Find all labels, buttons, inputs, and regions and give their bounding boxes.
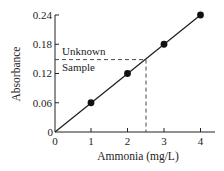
y-ticks [55, 15, 59, 103]
y-tick-label: 0.24 [33, 9, 53, 21]
x-tick-label: 0 [52, 135, 58, 147]
x-tick-label: 2 [125, 135, 131, 147]
x-tick-label: 1 [88, 135, 94, 147]
chart: 0.24 0.18 0.12 0.06 0 0 1 2 3 4 Ammonia … [0, 0, 224, 171]
x-tick-label: 4 [198, 135, 204, 147]
data-point [88, 99, 95, 106]
y-tick-label: 0.18 [33, 38, 53, 50]
data-point [161, 41, 168, 48]
y-axis-title: Absorbance [10, 47, 22, 102]
y-tick-label: 0.12 [33, 67, 52, 79]
annotation-sample: Sample [62, 61, 95, 73]
y-tick-label: 0.06 [33, 97, 53, 109]
x-tick-label: 3 [161, 135, 167, 147]
x-tick-labels: 0 1 2 3 4 [52, 135, 204, 147]
annotation-unknown: Unknown [62, 45, 106, 57]
x-axis-title: Ammonia (mg/L) [97, 150, 179, 163]
data-point [197, 12, 204, 19]
y-tick-labels: 0.24 0.18 0.12 0.06 0 [33, 9, 54, 138]
data-point [124, 70, 131, 77]
